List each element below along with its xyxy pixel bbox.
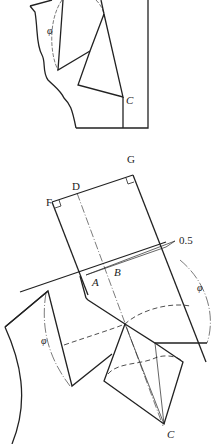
- mid-connector: [86, 298, 207, 343]
- top-panel: [30, 0, 148, 128]
- rect-right-edge: [133, 175, 206, 362]
- bottom-panel: [5, 175, 210, 444]
- rect-left-edge: [52, 202, 88, 295]
- top-label-phi: φ: [47, 25, 53, 36]
- dim-line-2: [86, 247, 166, 275]
- arc-phi-right: [180, 260, 210, 343]
- label-b: B: [114, 266, 121, 278]
- label-phi-left: φ: [41, 335, 47, 346]
- top-frame-outline: [76, 0, 148, 128]
- right-angle-g: [126, 178, 134, 184]
- label-d: D: [72, 180, 80, 192]
- label-c: C: [167, 428, 175, 440]
- top-left-wedge: [58, 0, 90, 70]
- label-dim-0-5: 0.5: [179, 234, 193, 246]
- label-g: G: [127, 153, 135, 165]
- label-a: A: [91, 276, 99, 288]
- top-label-c: C: [126, 94, 134, 106]
- left-curve: [5, 327, 22, 444]
- rect-top-edge: [52, 175, 133, 202]
- arc-phi-left: [44, 293, 70, 386]
- dim-line-1: [86, 241, 175, 275]
- left-piece-top: [5, 291, 48, 327]
- dashed-curve-lower: [108, 356, 183, 374]
- top-inner-triangle: [78, 14, 123, 97]
- center-line-d: [77, 193, 163, 426]
- label-f: F: [46, 196, 52, 208]
- pattern-diagram: C φ F D G: [0, 0, 216, 444]
- label-phi-right: φ: [197, 282, 203, 293]
